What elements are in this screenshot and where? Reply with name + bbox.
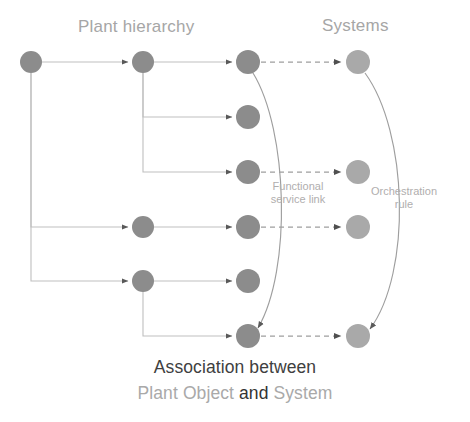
- edge-label-orchestration-rule-line1: Orchestration: [366, 185, 442, 198]
- node-plant-object-5[interactable]: [236, 269, 260, 293]
- diagram-caption: Association between Plant Object and Sys…: [0, 356, 470, 405]
- tree-edge-root-to-ph4: [31, 73, 128, 227]
- edge-label-functional-service-link: Functional service link: [259, 180, 337, 207]
- caption-line-entities: Plant Object and System: [0, 382, 470, 405]
- edge-label-functional-service-link-line2: service link: [259, 193, 337, 206]
- edge-label-orchestration-rule: Orchestration rule: [366, 185, 442, 212]
- tree-edge-ph5-to-po6: [143, 292, 232, 336]
- edge-label-orchestration-rule-line2: rule: [366, 198, 442, 211]
- node-plant-hierarchy-5[interactable]: [132, 270, 154, 292]
- node-system-1[interactable]: [346, 50, 370, 74]
- node-root[interactable]: [20, 51, 42, 73]
- node-plant-object-4[interactable]: [236, 215, 260, 239]
- node-system-6[interactable]: [346, 324, 370, 348]
- column-header-systems: Systems: [322, 16, 389, 36]
- caption-term-plant-object: Plant Object: [138, 383, 235, 403]
- tree-edges: [31, 62, 232, 336]
- column-header-plant-hierarchy: Plant hierarchy: [78, 17, 194, 37]
- node-plant-hierarchy-1[interactable]: [132, 51, 154, 73]
- edge-label-functional-service-link-line1: Functional: [259, 180, 337, 193]
- caption-term-and: and: [234, 383, 273, 403]
- tree-edge-ph1-to-po3: [143, 73, 232, 172]
- diagram-canvas-container: Plant hierarchy Systems Functional servi…: [0, 0, 470, 422]
- node-plant-object-1[interactable]: [236, 50, 260, 74]
- node-plant-object-6[interactable]: [236, 324, 260, 348]
- caption-line-association-between: Association between: [0, 356, 470, 379]
- node-plant-hierarchy-4[interactable]: [132, 216, 154, 238]
- tree-edge-root-to-ph5: [31, 73, 128, 281]
- node-plant-object-3[interactable]: [236, 160, 260, 184]
- tree-edge-ph1-to-po2: [143, 73, 232, 117]
- node-plant-object-2[interactable]: [236, 105, 260, 129]
- caption-term-system: System: [274, 383, 333, 403]
- node-system-4[interactable]: [346, 215, 370, 239]
- node-system-3[interactable]: [346, 160, 370, 184]
